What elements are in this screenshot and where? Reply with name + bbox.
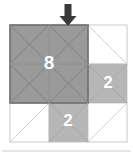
label-bottom-square-2: 2 xyxy=(63,111,72,130)
label-right-square-2: 2 xyxy=(103,73,112,92)
grid-cell-r2c0 xyxy=(10,103,49,142)
grid-cell-r2c2 xyxy=(88,103,127,142)
grid-cell-r0c2 xyxy=(88,25,127,64)
figure-canvas: 8 2 2 xyxy=(0,0,133,157)
label-large-square-8: 8 xyxy=(44,52,55,73)
geometry-figure: 8 2 2 xyxy=(0,0,133,157)
